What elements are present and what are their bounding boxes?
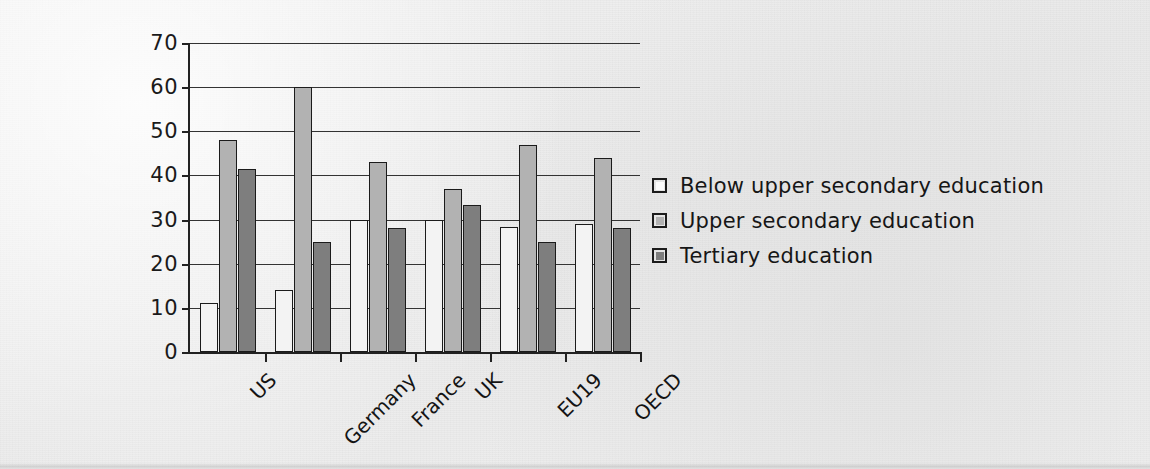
legend-swatch-below-upper-secondary (652, 178, 667, 193)
bar (369, 162, 387, 352)
y-tick-label: 60 (150, 75, 178, 99)
bar (500, 227, 518, 352)
y-tick-label: 0 (164, 340, 178, 364)
legend-swatch-upper-secondary (652, 213, 667, 228)
bar-group (340, 43, 415, 352)
category-separator-tick (415, 352, 417, 362)
bar-group (415, 43, 490, 352)
y-tick-label: 40 (150, 163, 178, 187)
x-axis-label-us: US (245, 368, 281, 404)
chart-page: 010203040506070 USGermanyFranceUKEU19OEC… (0, 0, 1150, 469)
legend-label: Below upper secondary education (680, 174, 1044, 198)
bar (313, 242, 331, 352)
bar (444, 189, 462, 352)
legend-label: Tertiary education (680, 244, 873, 268)
bar (425, 220, 443, 352)
legend-label: Upper secondary education (680, 209, 975, 233)
bar-group (190, 43, 265, 352)
chart-legend: Below upper secondary educationUpper sec… (652, 168, 1044, 273)
y-tick-label: 10 (150, 295, 178, 319)
legend-item: Below upper secondary education (652, 168, 1044, 203)
bar (200, 303, 218, 352)
y-tick-mark (182, 175, 190, 177)
legend-item: Tertiary education (652, 238, 1044, 273)
y-tick-label: 20 (150, 251, 178, 275)
bar (219, 140, 237, 352)
x-axis-label-eu19: EU19 (552, 368, 606, 422)
y-tick-label: 70 (150, 31, 178, 55)
y-tick-mark (182, 131, 190, 133)
legend-item: Upper secondary education (652, 203, 1044, 238)
y-tick-mark (182, 264, 190, 266)
y-tick-mark (182, 43, 190, 45)
bar (388, 228, 406, 352)
y-tick-mark (182, 87, 190, 89)
plot-area: 010203040506070 USGermanyFranceUKEU19OEC… (188, 43, 640, 354)
bar-group (490, 43, 565, 352)
y-tick-label: 50 (150, 119, 178, 143)
bar (538, 242, 556, 352)
bar (238, 169, 256, 352)
x-axis-label-france: France (406, 368, 470, 432)
legend-swatch-tertiary (652, 248, 667, 263)
y-tick-mark (182, 352, 190, 354)
category-separator-tick (565, 352, 567, 362)
category-separator-tick (640, 352, 642, 362)
category-separator-tick (490, 352, 492, 362)
bar (275, 290, 293, 352)
x-axis-label-uk: UK (470, 368, 507, 405)
bar (575, 224, 593, 352)
bar (613, 228, 631, 352)
category-separator-tick (340, 352, 342, 362)
y-tick-mark (182, 220, 190, 222)
bar (350, 220, 368, 352)
grouped-bar-chart: 010203040506070 USGermanyFranceUKEU19OEC… (0, 0, 1150, 469)
bar (594, 158, 612, 352)
bar-group (265, 43, 340, 352)
y-tick-mark (182, 308, 190, 310)
bar (519, 145, 537, 352)
x-axis-label-germany: Germany (338, 368, 420, 450)
category-separator-tick (265, 352, 267, 362)
x-axis-label-oecd: OECD (628, 368, 686, 426)
bar (463, 205, 481, 352)
bar-group (565, 43, 640, 352)
y-tick-label: 30 (150, 207, 178, 231)
bar (294, 87, 312, 352)
